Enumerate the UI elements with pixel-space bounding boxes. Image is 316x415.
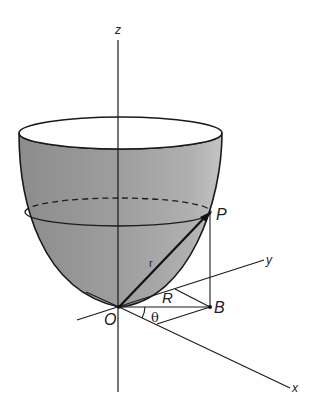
theta-arc xyxy=(142,307,145,318)
point-o xyxy=(117,305,121,309)
z-axis-label: z xyxy=(115,24,121,36)
point-b xyxy=(208,305,212,309)
diagram-canvas xyxy=(0,0,316,415)
origin-label: O xyxy=(104,312,116,328)
angle-theta-label: θ xyxy=(151,311,159,324)
radius-vector-label: r xyxy=(149,258,153,269)
point-p-label: P xyxy=(216,207,227,223)
x-axis xyxy=(119,307,290,388)
rim-ellipse xyxy=(19,117,222,149)
y-axis-label: y xyxy=(266,254,272,266)
b-to-y-projection xyxy=(175,289,210,307)
point-b-label: B xyxy=(214,300,225,316)
x-axis-label: x xyxy=(292,382,298,394)
horizontal-radius-label: R xyxy=(162,290,173,305)
b-to-x-projection xyxy=(157,307,210,324)
paraboloid-diagram: z y x P B O R r θ xyxy=(0,0,316,415)
